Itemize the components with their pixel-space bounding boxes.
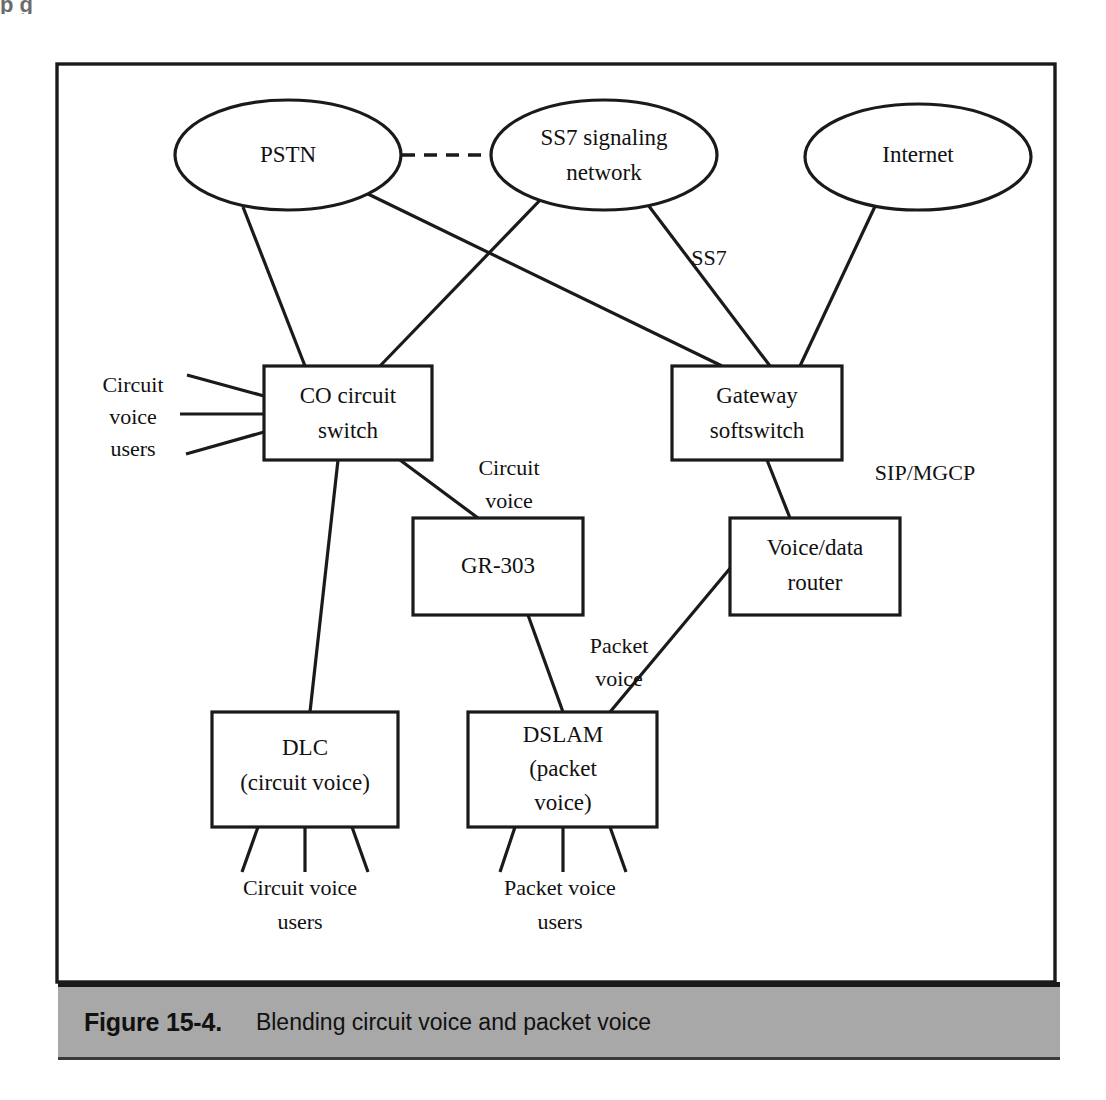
node-dlc-label-line1: DLC [282,735,328,760]
node-pstn-label: PSTN [260,142,317,167]
figure-container: p g [0,0,1106,1100]
label-circuit-voice-users-bottom-line2: users [277,909,322,934]
edge-label-sip-mgcp: SIP/MGCP [875,460,975,485]
node-gateway-softswitch[interactable] [672,366,842,460]
node-voice-data-router[interactable] [730,518,900,615]
node-dslam-label-line2: (packet [529,756,597,781]
node-dslam-label-line3: voice) [534,790,591,815]
label-packet-voice-users-bottom-line2: users [537,909,582,934]
network-diagram: PSTN SS7 signaling network Internet CO c… [0,0,1106,1100]
edge-label-ss7: SS7 [691,245,726,270]
node-ss7-label-line2: network [566,160,642,185]
node-gr-303-label: GR-303 [461,553,535,578]
label-circuit-voice-users-bottom-line1: Circuit voice [243,875,357,900]
node-internet-label: Internet [882,142,954,167]
node-co-circuit-switch[interactable] [264,366,432,460]
edge-label-circuit-voice-line2: voice [485,488,533,513]
node-gateway-softswitch-label-line1: Gateway [716,383,798,408]
label-circuit-voice-users-left-line3: users [110,436,155,461]
node-voice-data-router-label-line1: Voice/data [767,535,864,560]
edge-label-packet-voice-line2: voice [595,666,643,691]
node-voice-data-router-label-line2: router [788,570,843,595]
label-circuit-voice-users-left-line1: Circuit [102,372,163,397]
edge-label-circuit-voice-line1: Circuit [478,455,539,480]
figure-caption-text: Blending circuit voice and packet voice [256,1009,651,1036]
figure-number: Figure 15-4. [84,1008,222,1037]
node-ss7-signaling-network[interactable] [491,100,717,210]
node-dlc-label-line2: (circuit voice) [240,770,370,795]
node-ss7-label-line1: SS7 signaling [540,125,668,150]
node-dslam-label-line1: DSLAM [523,722,604,747]
node-co-circuit-switch-label-line2: switch [318,418,379,443]
label-packet-voice-users-bottom-line1: Packet voice [504,875,616,900]
node-co-circuit-switch-label-line1: CO circuit [300,383,397,408]
label-circuit-voice-users-left-line2: voice [109,404,157,429]
edge-label-packet-voice-line1: Packet [590,633,649,658]
figure-caption-bar: Figure 15-4. Blending circuit voice and … [58,982,1060,1060]
node-gateway-softswitch-label-line2: softswitch [710,418,805,443]
